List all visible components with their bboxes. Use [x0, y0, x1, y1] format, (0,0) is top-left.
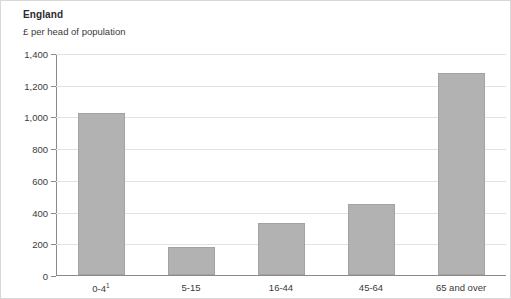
bar [258, 223, 305, 275]
y-axis-tick [51, 54, 56, 55]
bar [168, 247, 215, 275]
bar-chart-figure: England £ per head of population 0200400… [0, 0, 511, 299]
plot-area: 02004006008001,0001,2001,400 0-415-1516-… [56, 54, 506, 276]
y-axis-label: 200 [32, 239, 48, 250]
y-axis-label: 1,400 [24, 49, 48, 60]
bar [348, 204, 395, 275]
y-axis-label: 400 [32, 207, 48, 218]
y-axis-label: 600 [32, 175, 48, 186]
y-axis-line [56, 54, 57, 276]
gridline [56, 54, 506, 55]
y-axis-tick [51, 276, 56, 277]
footnote-marker: 1 [106, 282, 110, 289]
y-axis-label: 0 [43, 271, 48, 282]
x-axis-line [56, 275, 506, 276]
y-axis-tick [51, 149, 56, 150]
bar [438, 73, 485, 275]
x-axis-label: 5-15 [181, 282, 200, 293]
y-axis-tick [51, 213, 56, 214]
chart-title: England [23, 9, 63, 20]
y-axis-tick [51, 181, 56, 182]
y-axis-label: 1,000 [24, 112, 48, 123]
x-axis-label: 16-44 [269, 282, 293, 293]
bar [78, 113, 125, 275]
y-axis-tick [51, 86, 56, 87]
y-axis-label: 1,200 [24, 80, 48, 91]
y-axis-tick [51, 117, 56, 118]
chart-subtitle: £ per head of population [23, 26, 125, 37]
y-axis-label: 800 [32, 144, 48, 155]
y-axis-tick [51, 244, 56, 245]
x-axis-label: 65 and over [436, 282, 486, 293]
x-axis-label: 0-41 [92, 282, 109, 294]
x-axis-label: 45-64 [359, 282, 383, 293]
